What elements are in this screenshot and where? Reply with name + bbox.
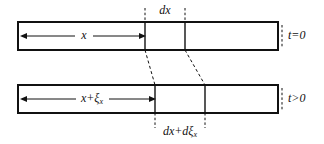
element-left-displacement-guide (145, 50, 155, 85)
bottom-distance-label-sub: x (99, 97, 104, 106)
top-time-label-text: t=0 (288, 28, 305, 42)
top-time-label: t=0 (288, 28, 305, 42)
bottom-distance-label-main: x+ (80, 91, 94, 105)
bottom-element-label: dx+dξx (163, 124, 198, 139)
strain-diagram-svg: dx x t=0 dx+dξx x+ξx t>0 (0, 0, 324, 144)
bottom-element-label-main: dx+d (163, 124, 189, 138)
top-element-label: dx (159, 3, 171, 17)
element-right-displacement-guide (185, 50, 205, 85)
bottom-element-label-sub: x (193, 130, 198, 139)
figure-canvas: dx x t=0 dx+dξx x+ξx t>0 (0, 0, 324, 144)
top-distance-label: x (80, 28, 87, 42)
bottom-time-label: t>0 (288, 91, 305, 105)
bottom-time-label-text: t>0 (288, 91, 305, 105)
